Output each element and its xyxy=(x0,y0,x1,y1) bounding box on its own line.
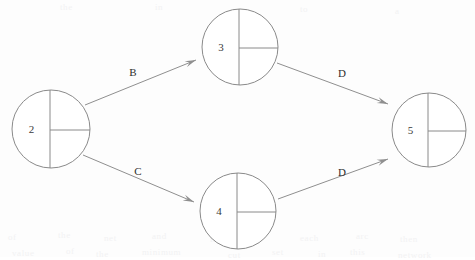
graph-edge-2-4: C xyxy=(83,155,194,202)
graph-node-4[interactable]: 4 xyxy=(200,173,276,249)
graph-edge-2-3: B xyxy=(85,60,196,105)
edge-line xyxy=(278,159,388,199)
nodes-group: 2345 xyxy=(12,9,466,249)
edge-label: D xyxy=(338,67,346,79)
edge-label: C xyxy=(134,165,141,177)
graph-node-5[interactable]: 5 xyxy=(392,93,466,167)
edge-line xyxy=(85,60,196,105)
node-circle xyxy=(202,9,278,85)
graph-edge-4-5: D xyxy=(278,159,388,199)
edge-line xyxy=(83,155,194,202)
node-label: 4 xyxy=(216,205,222,217)
graph-node-2[interactable]: 2 xyxy=(12,90,90,168)
node-label: 5 xyxy=(408,124,414,136)
graph-node-3[interactable]: 3 xyxy=(202,9,278,85)
node-label: 2 xyxy=(29,123,35,135)
node-label: 3 xyxy=(218,41,224,53)
edge-label: D xyxy=(338,166,346,178)
node-circle xyxy=(200,173,276,249)
node-circle xyxy=(392,93,466,167)
edge-label: B xyxy=(129,66,136,78)
node-circle xyxy=(12,90,90,168)
graph-edge-3-5: D xyxy=(277,63,388,104)
edge-line xyxy=(277,63,388,104)
